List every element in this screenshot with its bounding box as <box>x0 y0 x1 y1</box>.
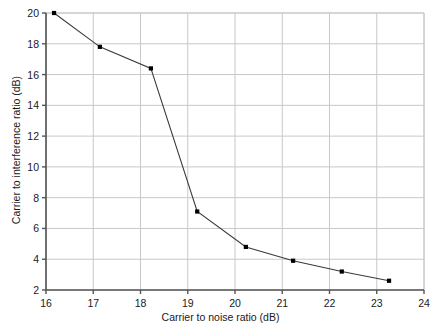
data-point-marker <box>195 209 199 213</box>
x-tick-label: 18 <box>135 297 147 309</box>
x-tick-label: 16 <box>40 297 52 309</box>
vertical-gridlines <box>46 13 424 290</box>
data-point-marker <box>244 245 248 249</box>
x-tick-label: 20 <box>229 297 241 309</box>
data-point-marker <box>340 269 344 273</box>
x-tick-label: 17 <box>87 297 99 309</box>
series-line <box>54 13 389 281</box>
plot-area <box>0 0 441 332</box>
y-tick-label: 2 <box>8 284 39 296</box>
y-axis-title: Carrier to interference ratio (dB) <box>10 50 22 250</box>
x-tick-label: 19 <box>182 297 194 309</box>
y-tick-label: 4 <box>8 253 39 265</box>
data-point-marker <box>291 259 295 263</box>
x-tick-label: 23 <box>371 297 383 309</box>
x-tick-label: 22 <box>324 297 336 309</box>
data-point-marker <box>52 11 56 15</box>
data-point-marker <box>387 279 391 283</box>
data-series-line <box>54 13 389 281</box>
x-tick-label: 21 <box>276 297 288 309</box>
y-tick-label: 20 <box>8 7 39 19</box>
y-tick-label: 18 <box>8 38 39 50</box>
x-tick-label: 24 <box>418 297 430 309</box>
x-axis-title: Carrier to noise ratio (dB) <box>0 311 441 323</box>
data-series-markers <box>52 11 391 283</box>
data-point-marker <box>149 66 153 70</box>
data-point-marker <box>98 45 102 49</box>
chart-figure: 2468101214161820 161718192021222324 Carr… <box>0 0 441 332</box>
axis-tick-marks <box>42 13 424 294</box>
